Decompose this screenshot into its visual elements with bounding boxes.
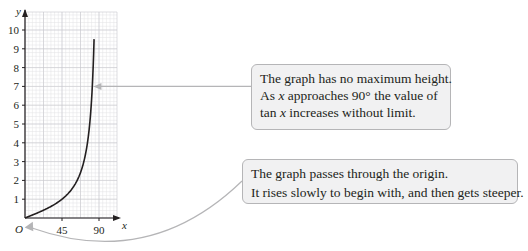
callout-top-arrow-icon [93,83,101,90]
y-tick-label: 8 [14,62,20,74]
callout-bottom-line-2: It rises slowly to begin with, and then … [251,183,509,202]
y-tick-label: 9 [14,43,20,55]
callout-bottom-arrow-icon [25,222,38,234]
y-axis-arrow-icon [22,9,28,17]
callout-bottom-line-1: The graph passes through the origin. [251,164,509,183]
x-axis-label: x [121,219,127,231]
callout-top-line-3: tan x increases without limit. [260,104,442,121]
y-tick-label: 6 [14,99,20,111]
y-tick-label: 7 [14,80,20,92]
y-tick-label: 3 [14,156,20,168]
callout-origin: The graph passes through the origin. It … [242,159,518,204]
callout-no-maximum: The graph has no maximum height. As x ap… [251,64,451,130]
tan-curve [25,39,94,218]
origin-label: O [15,223,23,235]
callout-top-line-2: As x approaches 90° the value of [260,87,442,104]
y-axis-label: y [15,5,21,17]
y-tick-label: 4 [14,137,20,149]
y-tick-label: 2 [14,174,20,186]
x-tick-label: 90 [94,224,106,236]
y-tick-label: 10 [8,24,20,36]
callout-top-line-1: The graph has no maximum height. [260,70,442,87]
x-tick-label: 45 [57,224,69,236]
y-tick-label: 1 [14,193,20,205]
y-tick-label: 5 [14,118,20,130]
